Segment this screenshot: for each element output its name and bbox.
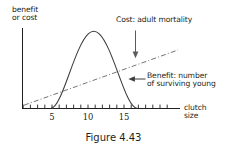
x-tick-label-10: 10 xyxy=(80,112,96,122)
benefit-annotation-label: Benefit: numberof surviving young xyxy=(147,72,216,88)
x-tick-label-15: 15 xyxy=(116,112,132,122)
figure-caption: Figure 4.43 xyxy=(0,132,227,143)
cost-annotation-label: Cost: adult mortality xyxy=(116,16,192,24)
cost-annotation-arrow xyxy=(133,31,139,59)
y-axis-label: benefitor cost xyxy=(12,6,38,22)
benefit-annotation-arrow xyxy=(128,76,145,82)
x-axis-ticks xyxy=(23,105,167,109)
x-axis-label: clutchsize xyxy=(184,104,206,120)
benefit-annotation-line2: of surviving young xyxy=(147,79,216,88)
x-tick-label-5: 5 xyxy=(44,112,60,122)
y-axis-label-line2: or cost xyxy=(12,13,37,22)
x-axis-label-line2: size xyxy=(184,111,198,120)
figure-container: benefitor cost clutchsize Cost: adult mo… xyxy=(0,0,227,155)
